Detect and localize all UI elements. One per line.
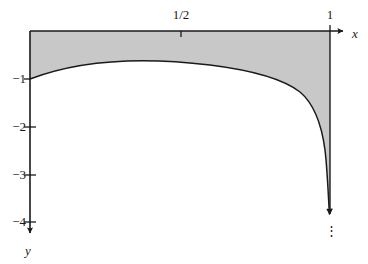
x-tick-label-one-half: 1/2	[166, 8, 196, 21]
figure-container: x y 1/2 1 −1 −2 −3 −4 ⋮	[0, 0, 368, 264]
y-tick-label-minus-3: −3	[6, 168, 26, 181]
plot-canvas	[0, 0, 368, 264]
shaded-region	[30, 31, 330, 219]
x-axis-label: x	[352, 27, 358, 40]
y-axis-label: y	[25, 244, 31, 257]
x-tick-label-one: 1	[322, 8, 338, 21]
y-tick-label-minus-4: −4	[6, 215, 26, 228]
boundary-curve	[30, 61, 329, 214]
y-tick-label-minus-1: −1	[6, 72, 26, 85]
y-tick-label-minus-2: −2	[6, 120, 26, 133]
vertical-ellipsis: ⋮	[325, 224, 337, 237]
